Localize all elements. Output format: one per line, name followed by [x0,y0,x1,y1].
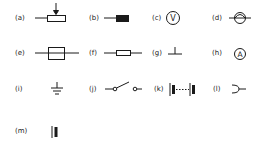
variable-resistor-icon [35,3,66,22]
battery-icon [170,83,195,96]
ammeter-glyph: A [237,50,243,59]
resistor-icon [104,51,142,56]
fuse-icon [35,48,79,60]
chassis-earth-icon [168,47,182,54]
earth-ground-icon [51,82,63,94]
symbols-canvas: V A [0,0,263,141]
lamp-icon [229,13,251,24]
plug-socket-icon [232,85,246,93]
voltmeter-glyph: V [170,14,176,23]
heater-element-icon [104,16,129,22]
cell-icon [52,126,58,138]
switch-icon [105,82,142,91]
